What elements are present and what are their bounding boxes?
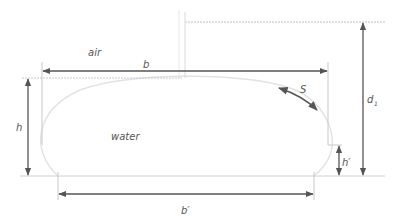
d1-label: d [367,94,374,105]
h-prime-label: h′ [342,157,351,168]
air-label: air [88,47,102,58]
d1-subscript: 1 [374,100,378,107]
water-label: water [111,131,140,142]
s-label: S [300,84,307,95]
b-label: b [143,59,149,70]
b-prime-label: b′ [181,205,190,216]
h-label: h [16,122,22,133]
droplet-diagram: air water b h d 1 h′ b′ S [0,0,397,220]
